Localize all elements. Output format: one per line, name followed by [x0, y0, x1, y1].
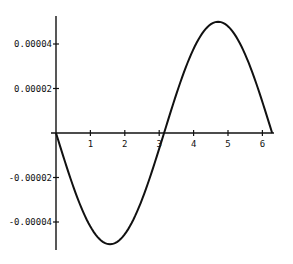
x-tick-label: 5: [225, 139, 230, 149]
x-tick-label: 2: [122, 139, 127, 149]
y-tick-label: -0.00002: [9, 173, 52, 183]
y-tick-label: 0.00004: [14, 39, 52, 49]
y-tick-label: -0.00004: [9, 217, 52, 227]
sine-plot: 123456 0.000040.00002-0.00002-0.00004: [0, 0, 293, 264]
x-tick-label: 6: [260, 139, 265, 149]
x-tick-label: 4: [191, 139, 196, 149]
y-tick-label: 0.00002: [14, 84, 52, 94]
x-tick-label: 1: [88, 139, 93, 149]
